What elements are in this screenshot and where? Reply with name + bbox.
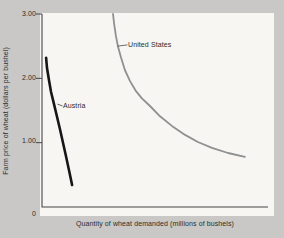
austria-leader-line — [57, 104, 62, 106]
chart-svg — [0, 0, 284, 238]
austria-curve-label: Austria — [63, 102, 86, 110]
united-states-leader-line — [117, 45, 127, 46]
united-states-curve — [113, 14, 245, 157]
y-tick-label-0: 0 — [6, 210, 36, 218]
united-states-curve-label: United States — [128, 41, 171, 49]
y-axis-title: Farm price of wheat (dollars per bushel) — [2, 11, 12, 211]
demand-curves-figure: 3.00 2.00 1.00 0 Farm price of wheat (do… — [0, 0, 284, 238]
x-axis-title: Quantity of wheat demanded (millions of … — [42, 220, 268, 228]
austria-curve — [46, 58, 72, 185]
